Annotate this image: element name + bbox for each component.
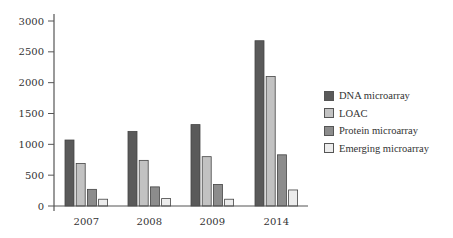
bar-protein-microarray-2009 — [213, 184, 222, 206]
legend-item: Protein microarray — [324, 122, 429, 140]
y-tick-label: 1000 — [19, 139, 44, 150]
y-tick-label: 1500 — [19, 108, 44, 119]
bars — [65, 41, 298, 206]
x-tick-label: 2009 — [200, 216, 225, 227]
y-axis: 050010001500200025003000 — [19, 14, 54, 212]
legend-label: LOAC — [339, 108, 368, 119]
legend-label: Emerging microarray — [339, 143, 429, 154]
bar-loac-2014 — [266, 77, 275, 207]
bar-emerging-microarray-2014 — [289, 190, 298, 206]
x-tick-label: 2007 — [74, 216, 99, 227]
legend-swatch-icon — [324, 108, 334, 118]
legend-swatch-icon — [324, 91, 334, 101]
bar-dna-microarray-2008 — [128, 131, 137, 206]
y-tick-label: 3000 — [19, 16, 44, 27]
y-tick-label: 500 — [25, 170, 44, 181]
x-tick-label: 2008 — [137, 216, 162, 227]
x-tick-label: 2014 — [264, 216, 289, 227]
bar-protein-microarray-2008 — [150, 187, 159, 206]
bar-dna-microarray-2007 — [65, 140, 74, 206]
legend-swatch-icon — [324, 126, 334, 136]
legend-label: DNA microarray — [339, 90, 410, 101]
bar-dna-microarray-2014 — [255, 41, 264, 206]
bar-protein-microarray-2007 — [87, 189, 96, 206]
bar-emerging-microarray-2008 — [162, 199, 171, 206]
y-tick-label: 0 — [38, 201, 44, 212]
y-tick-label: 2500 — [19, 46, 44, 57]
bar-emerging-microarray-2009 — [225, 199, 234, 206]
legend-item: LOAC — [324, 105, 429, 123]
x-axis: 2007200820092014 — [54, 206, 308, 227]
bar-emerging-microarray-2007 — [99, 199, 108, 206]
bar-dna-microarray-2009 — [191, 125, 200, 206]
bar-loac-2008 — [139, 160, 148, 206]
bar-loac-2007 — [76, 163, 85, 206]
legend-swatch-icon — [324, 143, 334, 153]
legend: DNA microarrayLOACProtein microarrayEmer… — [324, 87, 429, 157]
bar-protein-microarray-2014 — [277, 155, 286, 206]
legend-item: DNA microarray — [324, 87, 429, 105]
legend-item: Emerging microarray — [324, 140, 429, 158]
legend-label: Protein microarray — [339, 125, 418, 136]
bar-loac-2009 — [202, 157, 211, 206]
y-tick-label: 2000 — [19, 77, 44, 88]
